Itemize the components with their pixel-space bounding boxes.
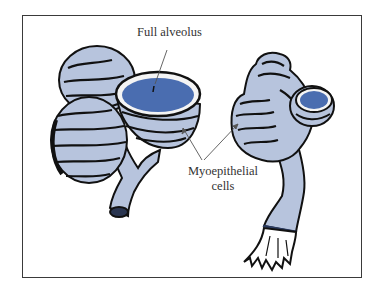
full-alveolus-label: Full alveolus bbox=[137, 25, 202, 40]
lower-left-alveolus bbox=[51, 97, 127, 183]
right-alveolar-cluster bbox=[232, 53, 335, 270]
right-alveolus-lumen bbox=[300, 91, 328, 109]
myoepithelial-label-line1: Myoepithelial bbox=[183, 164, 263, 179]
alveoli-illustration bbox=[0, 0, 385, 295]
left-duct-opening bbox=[110, 207, 128, 217]
alveolus-lumen bbox=[122, 78, 194, 112]
myoepithelial-label-line2: cells bbox=[183, 179, 263, 194]
right-open-alveolus bbox=[290, 86, 334, 126]
myoepithelial-leader-right bbox=[204, 124, 238, 160]
left-alveolar-cluster bbox=[51, 46, 200, 217]
full-alveolus bbox=[116, 72, 200, 148]
duct-fringe bbox=[244, 228, 296, 270]
myoepithelial-cells-label: Myoepithelial cells bbox=[183, 164, 263, 194]
